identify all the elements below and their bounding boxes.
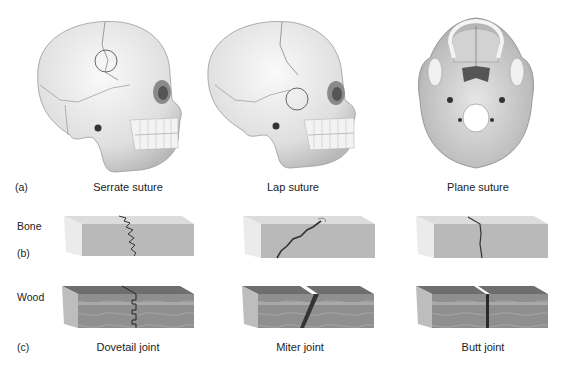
wood-block-miter: [242, 284, 374, 330]
row-c-marker: (c): [17, 341, 29, 353]
row-a-marker: (a): [15, 181, 28, 193]
bone-block-oblique: [243, 214, 375, 259]
bone-block-straight: [416, 214, 548, 259]
skull-lateral-icon: [0, 0, 190, 180]
caption-dovetail-joint: Dovetail joint: [88, 341, 168, 353]
caption-serrate-suture: Serrate suture: [88, 181, 168, 193]
caption-miter-joint: Miter joint: [265, 341, 335, 353]
caption-lap-suture: Lap suture: [258, 181, 328, 193]
wood-block-dovetail: [62, 284, 194, 330]
skull-lateral-icon: [190, 0, 380, 180]
bone-label: Bone: [17, 220, 42, 232]
bone-block-serrate: [64, 214, 194, 259]
caption-plane-suture: Plane suture: [443, 181, 513, 193]
skull-base-icon: [380, 0, 565, 180]
wood-block-butt: [416, 284, 548, 330]
wood-label: Wood: [17, 291, 44, 303]
caption-butt-joint: Butt joint: [448, 341, 518, 353]
row-b-marker: (b): [17, 247, 30, 259]
